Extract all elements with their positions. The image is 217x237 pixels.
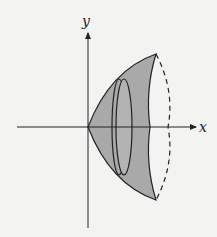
diagram: x y — [0, 0, 217, 237]
y-axis-label: y — [81, 13, 91, 29]
solid-of-revolution-figure: x y — [0, 0, 217, 237]
x-axis-label: x — [199, 119, 207, 135]
